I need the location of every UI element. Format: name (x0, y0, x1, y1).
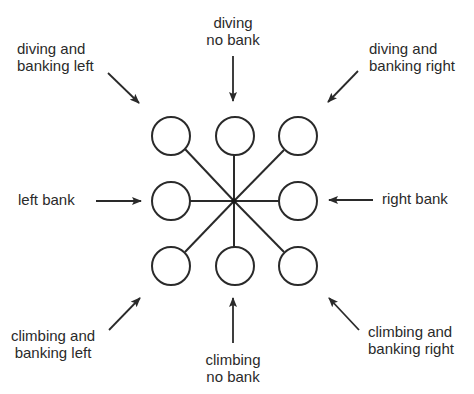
arrow-diving-banking-left (108, 73, 139, 103)
label-line: banking left (3, 344, 103, 361)
label-line: climbing and (368, 323, 454, 340)
spoke-bottom-right (234, 201, 284, 252)
label-line: banking left (17, 57, 94, 74)
arrow-climbing-banking-left (109, 298, 140, 330)
label-left-bank: left bank (18, 191, 75, 208)
label-line: diving and (17, 40, 94, 57)
label-diving-banking-left: diving and banking left (17, 40, 94, 74)
label-climbing-no-bank: climbing no bank (193, 351, 273, 385)
label-diving-banking-right: diving and banking right (369, 40, 455, 74)
circle-top-left (152, 117, 190, 155)
circle-middle-left (152, 182, 190, 220)
arrow-climbing-banking-right (329, 298, 359, 330)
spoke-top-right (234, 150, 284, 201)
label-line: right bank (382, 190, 448, 207)
spoke-top-left (185, 149, 234, 201)
spoke-bottom-left (185, 201, 234, 252)
label-line: climbing (193, 351, 273, 368)
circle-bottom-right (279, 247, 317, 285)
label-line: banking right (368, 340, 454, 357)
arrow-diving-banking-right (328, 71, 358, 102)
label-line: no bank (193, 31, 273, 48)
label-line: banking right (369, 57, 455, 74)
circle-middle-right (279, 182, 317, 220)
label-line: diving (193, 14, 273, 31)
label-climbing-banking-right: climbing and banking right (368, 323, 454, 357)
circle-bottom-left (152, 247, 190, 285)
label-line: left bank (18, 191, 75, 208)
label-climbing-banking-left: climbing and banking left (3, 327, 103, 361)
hub-dot (232, 199, 237, 204)
label-line: climbing and (3, 327, 103, 344)
circle-top-right (279, 117, 317, 155)
label-diving-no-bank: diving no bank (193, 14, 273, 48)
label-line: diving and (369, 40, 455, 57)
label-line: no bank (193, 368, 273, 385)
circle-bottom-center (216, 247, 254, 285)
label-right-bank: right bank (382, 190, 448, 207)
circle-top-center (216, 117, 254, 155)
